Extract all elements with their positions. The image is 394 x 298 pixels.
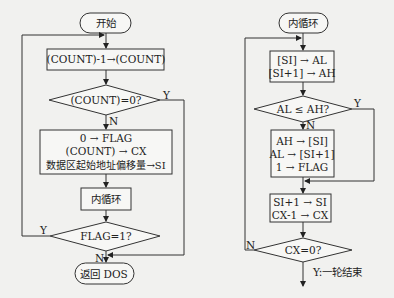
cx-zero-no: N: [246, 239, 255, 251]
init-line-2: (COUNT) → CX: [66, 145, 147, 157]
load-line-2: [SI+1] → AH: [268, 67, 335, 79]
increment-line-2: CX-1 → CX: [272, 209, 329, 221]
swap-line-1: AH → [SI]: [275, 135, 328, 147]
increment-line-1: SI+1 → SI: [273, 196, 327, 208]
cx-zero-yes: Y:一轮结束: [312, 266, 363, 278]
flag-label: FLAG=1?: [80, 230, 132, 242]
inner-loop-label: 内循环: [91, 193, 121, 205]
compare-yes: Y: [353, 97, 362, 109]
flowchart-canvas: 开始 (COUNT)-1→(COUNT) (COUNT)=0? Y N 0 → …: [0, 0, 394, 298]
flag-no: N: [95, 252, 104, 264]
cx-zero-label: CX=0?: [285, 244, 322, 256]
flag-yes: Y: [39, 224, 48, 236]
count-zero-no: N: [109, 115, 118, 127]
load-line-1: [SI] → AL: [277, 54, 327, 66]
end-label: 返回 DOS: [80, 268, 128, 280]
start-label: 开始: [96, 17, 117, 29]
init-line-1: 0 → FLAG: [80, 132, 132, 144]
swap-line-2: AL → [SI+1]: [268, 148, 334, 160]
count-zero-yes: Y: [162, 89, 171, 101]
swap-line-3: 1 → FLAG: [276, 161, 328, 173]
compare-no: N: [306, 119, 315, 131]
inner-start-label: 内循环: [288, 17, 318, 29]
compare-label: AL ≤ AH?: [276, 103, 330, 115]
decrement-label: (COUNT)-1→(COUNT): [47, 53, 166, 65]
init-line-3: 数据区起始地址偏移量→SI: [46, 159, 165, 171]
count-zero-label: (COUNT)=0?: [71, 94, 142, 106]
